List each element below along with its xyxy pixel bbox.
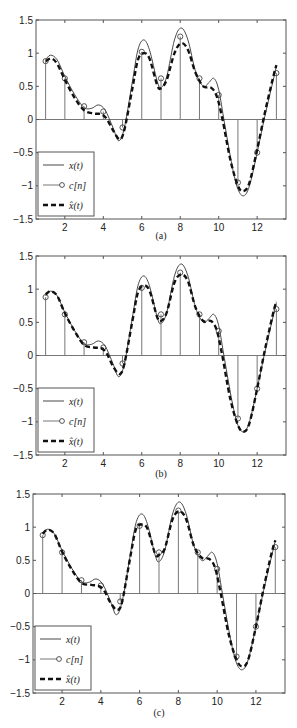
x-tick-label: 10 (213, 222, 225, 233)
y-tick-label: −1.5 (13, 450, 33, 461)
x-tick-label: 12 (250, 696, 262, 707)
y-tick-label: 1.5 (16, 489, 30, 500)
x-tick-label: 12 (252, 222, 264, 233)
y-tick-label: 0 (24, 588, 30, 599)
y-tick-label: 0.5 (16, 555, 30, 566)
y-tick-label: 1 (27, 284, 33, 295)
x-tick-label: 10 (212, 696, 224, 707)
subplot-b: 246810121.510.50−0.5−1−1.5x(t)c[n]x̂(t)(… (0, 245, 297, 485)
x-tick-label: 4 (101, 222, 107, 233)
x-tick-label: 10 (213, 458, 225, 469)
x-tick-label: 8 (177, 222, 183, 233)
y-tick-label: 0.5 (19, 81, 33, 92)
x-tick-label: 2 (62, 222, 68, 233)
x-tick-label: 6 (139, 222, 145, 233)
legend-entry-label: x(t) (68, 396, 84, 408)
y-tick-label: 0 (27, 114, 33, 125)
y-tick-label: −1 (22, 416, 34, 427)
legend-entry-label: x̂(t) (65, 674, 81, 686)
chart-svg: 246810121.510.50−0.5−1−1.5x(t)c[n]x̂(t)(… (0, 485, 297, 728)
y-tick-label: −1 (22, 180, 34, 191)
subplot-a: 246810121.510.50−0.5−1−1.5x(t)c[n]x̂(t)(… (0, 0, 297, 245)
x-tick-label: 8 (177, 458, 183, 469)
x-tick-label: 6 (137, 696, 143, 707)
legend-entry-label: c[n] (69, 180, 86, 191)
x-tick-label: 4 (98, 696, 104, 707)
y-tick-label: −0.5 (10, 621, 30, 632)
chart-svg: 246810121.510.50−0.5−1−1.5x(t)c[n]x̂(t)(… (0, 0, 297, 245)
y-tick-label: 1 (27, 48, 33, 59)
y-tick-label: −0.5 (13, 147, 33, 158)
x-tick-label: 4 (101, 458, 107, 469)
legend: x(t)c[n]x̂(t) (38, 152, 94, 216)
y-tick-label: −1 (19, 654, 31, 665)
y-tick-label: 0.5 (19, 317, 33, 328)
x-tick-label: 6 (139, 458, 145, 469)
subplot-caption: (a) (155, 230, 166, 242)
subplot-caption: (b) (155, 468, 167, 480)
legend-entry-label: c[n] (69, 416, 86, 427)
chart-svg: 246810121.510.50−0.5−1−1.5x(t)c[n]x̂(t)(… (0, 245, 297, 485)
legend: x(t)c[n]x̂(t) (35, 626, 91, 690)
y-tick-label: −1.5 (10, 688, 30, 699)
subplot-c: 246810121.510.50−0.5−1−1.5x(t)c[n]x̂(t)(… (0, 485, 297, 728)
x-tick-label: 12 (252, 458, 264, 469)
x-tick-label: 2 (62, 458, 68, 469)
legend-entry-label: x(t) (65, 634, 81, 646)
y-tick-label: 1.5 (19, 251, 33, 262)
x-tick-label: 2 (59, 696, 65, 707)
y-tick-label: 1 (24, 522, 30, 533)
x-tick-label: 8 (176, 696, 182, 707)
legend-entry-label: c[n] (66, 654, 83, 665)
legend: x(t)c[n]x̂(t) (38, 388, 94, 452)
y-tick-label: 1.5 (19, 15, 33, 26)
y-tick-label: −1.5 (13, 214, 33, 225)
legend-entry-label: x(t) (68, 160, 84, 172)
legend-entry-label: x̂(t) (68, 436, 84, 448)
y-tick-label: 0 (27, 350, 33, 361)
legend-entry-label: x̂(t) (68, 200, 84, 212)
y-tick-label: −0.5 (13, 383, 33, 394)
subplot-caption: (c) (153, 707, 164, 719)
